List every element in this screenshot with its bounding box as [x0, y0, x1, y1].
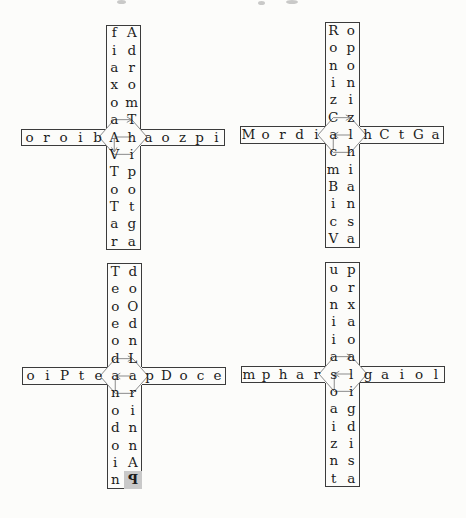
letter-cell: n	[124, 437, 142, 454]
letter-cell: o	[343, 331, 361, 348]
letter-cell: i	[72, 129, 89, 146]
letter-cell: o	[106, 181, 124, 198]
letter-cell: o	[325, 383, 343, 400]
letter-cell: a	[106, 215, 124, 232]
letter-cell: a	[140, 129, 157, 146]
letter-cell: t	[393, 126, 410, 143]
letter-cell: h	[359, 126, 376, 143]
letter-cell: p	[258, 366, 275, 383]
letter-cell: z	[325, 91, 343, 108]
letter-cell: i	[325, 196, 343, 213]
letter-cell: c	[325, 213, 343, 230]
letter-cell: n	[342, 196, 360, 213]
letter-cell: D	[158, 367, 175, 384]
letter-cell: m	[241, 366, 258, 383]
letter-cell: o	[124, 280, 142, 297]
letter-cell: e	[107, 280, 125, 297]
letter-cell: l	[343, 366, 361, 383]
letter-cell: C	[325, 109, 343, 126]
letter-cell: i	[325, 418, 343, 435]
letter-cell: r	[274, 126, 291, 143]
letter-cell: R	[325, 22, 343, 39]
letter-cell: n	[124, 333, 142, 350]
letter-cell: a	[124, 367, 142, 384]
letter-cell: o	[55, 129, 72, 146]
letter-cell: d	[124, 263, 142, 280]
letter-cell: d	[107, 419, 125, 436]
letter-cell: g	[360, 366, 377, 383]
letter-cell: a	[342, 230, 360, 247]
letter-cell: n	[107, 471, 125, 488]
letter-cell: s	[343, 452, 361, 469]
letter-cell: r	[343, 279, 361, 296]
letter-cell: o	[325, 39, 343, 56]
letter-cell: A	[123, 25, 141, 42]
letter-cell: t	[73, 367, 90, 384]
letter-cell: a	[343, 348, 361, 365]
letter-cell: f	[106, 25, 124, 42]
letter-cell: p	[342, 39, 360, 56]
letter-cell: z	[342, 109, 360, 126]
scan-artifact	[286, 0, 298, 4]
letter-cell: G	[410, 126, 427, 143]
letter-cell: d	[107, 350, 125, 367]
letter-cell: i	[325, 314, 343, 331]
letter-cell: o	[22, 367, 39, 384]
letter-cell: h	[123, 129, 141, 146]
letter-cell: h	[275, 366, 292, 383]
letter-cell: o	[123, 181, 141, 198]
letter-cell: o	[157, 129, 174, 146]
letter-cell: e	[209, 367, 226, 384]
letter-cell: i	[343, 383, 361, 400]
letter-cell: d	[124, 315, 142, 332]
letter-cell: o	[342, 57, 360, 74]
letter-cell: u	[325, 262, 343, 279]
letter-cell: i	[394, 366, 411, 383]
letter-cell: r	[123, 59, 141, 76]
letter-cell: a	[107, 367, 125, 384]
letter-cell: g	[343, 400, 361, 417]
letter-cell: o	[107, 437, 125, 454]
letter-cell: n	[325, 57, 343, 74]
letter-cell: l	[342, 126, 360, 143]
letter-cell: V	[106, 146, 124, 163]
letter-cell: c	[325, 144, 343, 161]
letter-cell: d	[343, 418, 361, 435]
letter-cell: x	[106, 77, 124, 94]
letter-cell: o	[342, 22, 360, 39]
letter-cell: i	[107, 454, 125, 471]
letter-cell: n	[107, 385, 125, 402]
letter-cell: z	[174, 129, 191, 146]
letter-cell: m	[123, 94, 141, 111]
letter-cell: o	[106, 94, 124, 111]
letter-cell: P	[56, 367, 73, 384]
letter-cell: a	[343, 470, 361, 487]
letter-cell: a	[325, 400, 343, 417]
letter-cell: a	[123, 233, 141, 250]
letter-cell: p	[343, 262, 361, 279]
letter-cell: i	[325, 331, 343, 348]
letter-cell: e	[107, 315, 125, 332]
letter-cell: a	[325, 348, 343, 365]
letter-cell: M	[240, 126, 257, 143]
letter-cell: r	[309, 366, 326, 383]
letter-cell: l	[428, 366, 445, 383]
letter-cell: o	[107, 333, 125, 350]
letter-cell: r	[124, 385, 142, 402]
letter-cell: d	[123, 42, 141, 59]
letter-cell: o	[257, 126, 274, 143]
letter-cell: d	[291, 126, 308, 143]
letter-cell: i	[208, 129, 225, 146]
letter-cell: a	[377, 366, 394, 383]
letter-cell: A	[124, 454, 142, 471]
letter-cell: T	[123, 111, 141, 128]
letter-cell: V	[325, 230, 343, 247]
letter-cell: P	[124, 471, 142, 488]
puzzle-page: fiaxoaAVToTarAdromThipotgaoroibaozpiRoni…	[0, 0, 466, 518]
letter-cell: i	[124, 402, 142, 419]
letter-cell: a	[325, 126, 343, 143]
letter-cell: n	[124, 419, 142, 436]
letter-cell: o	[411, 366, 428, 383]
letter-cell: s	[325, 366, 343, 383]
letter-cell: s	[342, 213, 360, 230]
